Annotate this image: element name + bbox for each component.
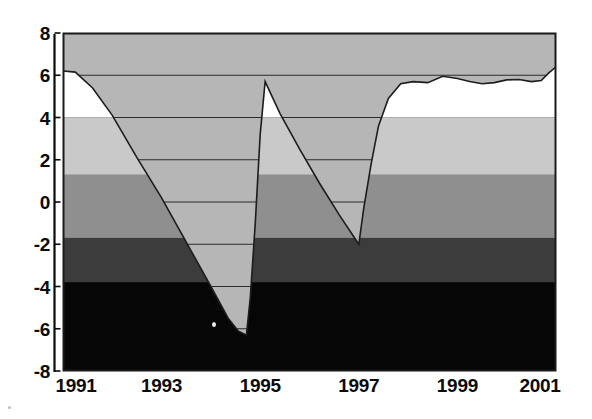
- y-tick-label-6: 6: [16, 66, 50, 85]
- y-tick-label-2: 2: [16, 150, 50, 169]
- x-tick-label-1995: 1995: [240, 376, 281, 395]
- y-axis-line: [55, 33, 61, 372]
- repaint-band-medium-gray: [63, 175, 556, 238]
- chart-figure: 86420-2-4-6-8 199119931995199719992001: [0, 0, 592, 419]
- y-tick-label-neg4: -4: [16, 277, 50, 296]
- x-tick-label-1993: 1993: [141, 376, 182, 395]
- repaint-band-dark-gray: [63, 238, 556, 282]
- scan-speck-lower: [8, 406, 11, 409]
- repaint-band-black: [63, 282, 556, 371]
- chart-plot-svg: [0, 0, 592, 419]
- y-tick-label-0: 0: [16, 193, 50, 212]
- y-tick-label-neg8: -8: [16, 362, 50, 381]
- y-tick-label-neg6: -6: [16, 319, 50, 338]
- y-tick-label-neg2: -2: [16, 235, 50, 254]
- x-tick-label-2001: 2001: [519, 376, 560, 395]
- x-tick-label-1997: 1997: [338, 376, 379, 395]
- x-tick-label-1999: 1999: [437, 376, 478, 395]
- y-tick-label-4: 4: [16, 108, 50, 127]
- y-tick-label-8: 8: [16, 24, 50, 43]
- x-tick-label-1991: 1991: [55, 376, 96, 395]
- scan-speck: [212, 322, 216, 327]
